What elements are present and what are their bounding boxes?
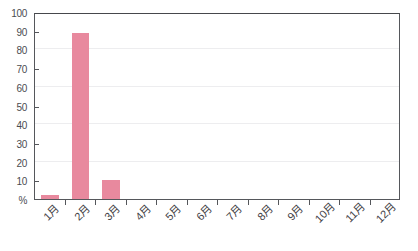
x-axis-tick-label: 5月 xyxy=(161,200,184,223)
x-axis-labels: 1月2月3月4月5月6月7月8月9月10月11月12月 xyxy=(34,202,400,251)
y-axis-tick-label: 70 xyxy=(16,64,27,75)
bar-slot xyxy=(338,14,368,199)
y-axis-tick-label: 90 xyxy=(16,26,27,37)
x-axis-tick-label: 1月 xyxy=(39,200,62,223)
x-axis-tick-label: 7月 xyxy=(222,200,245,223)
x-axis-tick-label: 6月 xyxy=(192,200,215,223)
bar-slot xyxy=(369,14,399,199)
y-axis-tick-label: 10 xyxy=(16,176,27,187)
x-axis-tick-label: 9月 xyxy=(283,200,306,223)
y-axis-tick-mark xyxy=(34,144,39,145)
x-axis-tick-label: 12月 xyxy=(371,198,399,226)
y-axis-tick-mark xyxy=(34,32,39,33)
y-axis-tick-mark xyxy=(34,181,39,182)
x-axis-tick-label: 8月 xyxy=(253,200,276,223)
y-axis-tick-label: 40 xyxy=(16,120,27,131)
x-axis-tick-label: 11月 xyxy=(341,198,368,225)
bar-slot xyxy=(126,14,156,199)
bar-slot xyxy=(217,14,247,199)
y-axis-tick-label: 80 xyxy=(16,45,27,56)
bar[interactable] xyxy=(41,195,59,199)
bar-slot xyxy=(96,14,126,199)
bar-slot xyxy=(35,14,65,199)
y-axis-tick-label: 60 xyxy=(16,82,27,93)
x-axis-tick-label: 2月 xyxy=(70,200,93,223)
y-axis-tick-mark xyxy=(34,69,39,70)
y-axis-tick-label: 50 xyxy=(16,101,27,112)
bar-slot xyxy=(247,14,277,199)
bar-slot xyxy=(187,14,217,199)
x-axis-tick-label: 4月 xyxy=(131,200,154,223)
bar-chart: %102030405060708090100 1月2月3月4月5月6月7月8月9… xyxy=(0,0,418,251)
y-axis-labels: %102030405060708090100 xyxy=(0,13,30,200)
bar[interactable] xyxy=(72,33,90,199)
plot-area xyxy=(34,13,400,200)
bar[interactable] xyxy=(102,180,120,199)
y-axis-tick-mark xyxy=(34,107,39,108)
x-axis-tick-label: 3月 xyxy=(100,200,123,223)
bar-slot xyxy=(308,14,338,199)
y-axis-tick-label: 100 xyxy=(11,8,27,19)
x-axis-tick-label: 10月 xyxy=(310,198,338,226)
y-axis-tick-label: 30 xyxy=(16,138,27,149)
bar-slot xyxy=(156,14,186,199)
bar-slot xyxy=(65,14,95,199)
bars-container xyxy=(35,14,399,199)
bar-slot xyxy=(278,14,308,199)
y-axis-tick-label: % xyxy=(18,195,27,206)
y-axis-tick-label: 20 xyxy=(16,157,27,168)
